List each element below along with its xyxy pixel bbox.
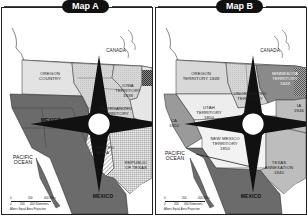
scale-km-200: 200	[20, 203, 25, 206]
scale-miles-400: 400 Miles	[198, 197, 210, 200]
title-rule-left-a	[4, 6, 66, 7]
label-republic-of-texas: REPUBLIC OF TEXAS	[122, 160, 150, 170]
label-new-mexico-territory: NEW MEXICO TERRITORY 1850	[208, 136, 242, 151]
label-unorganized-territory: UNORGANIZED TERRITORY	[96, 106, 136, 116]
label-iowa-territory: IOWA TERRITORY 1838	[114, 83, 142, 98]
label-mexico-south: MEXICO	[88, 194, 118, 199]
label-utah-territory: UTAH TERRITORY 1850	[194, 105, 224, 120]
title-rule-left-b	[158, 6, 220, 7]
scale-miles-200: 200	[182, 197, 187, 200]
scale-miles-200: 200	[28, 197, 33, 200]
title-rule-right-a	[112, 6, 152, 7]
label-texas-annexation: TEXAS ANNEXATION 1845	[260, 160, 298, 175]
label-oregon-territory: OREGON TERRITORY 1848	[182, 71, 220, 81]
label-canada: CANADA	[96, 48, 136, 53]
scale-km-400: 400 Kilometers	[30, 203, 49, 206]
label-mexico: MEXICO	[236, 194, 266, 199]
label-pacific-ocean: PACIFIC OCEAN	[160, 151, 190, 161]
map-b: CANADA OREGON TERRITORY 1848 MINNESOTA T…	[155, 7, 307, 215]
scale-km-200: 200	[174, 203, 179, 206]
map-b-title: Map B	[216, 0, 263, 13]
label-pacific-ocean: PACIFIC OCEAN	[8, 155, 38, 165]
label-unorganized-territory: UNORGANIZED TERRITORY	[230, 91, 270, 101]
label-minnesota-territory: MINNESOTA TERRITORY 1849	[270, 71, 300, 86]
map-a: CANADA OREGON COUNTRY IOWA TERRITORY 183…	[1, 7, 153, 215]
scale-km-0: 0	[10, 203, 12, 206]
scale-miles-0: 0	[10, 197, 12, 200]
scale-km-0: 0	[164, 203, 166, 206]
scale-miles-0: 0	[164, 197, 166, 200]
map-a-title: Map A	[62, 0, 109, 13]
label-disputed-area: DISPUTED AREA	[90, 145, 116, 155]
scale-miles-400: 400 Miles	[44, 197, 56, 200]
label-canada: CANADA	[250, 48, 290, 53]
title-rule-right-b	[266, 6, 306, 7]
scale-km-400: 400 Kilometers	[184, 203, 203, 206]
label-california: CA 1850	[166, 118, 182, 128]
projection-note: Albers Equal-Area Projection	[10, 208, 46, 211]
projection-note: Albers Equal-Area Projection	[164, 208, 200, 211]
label-mexico-north: MEXICO	[38, 118, 64, 123]
label-oregon-country: OREGON COUNTRY	[32, 71, 68, 81]
label-iowa: IA 1846	[292, 103, 306, 113]
